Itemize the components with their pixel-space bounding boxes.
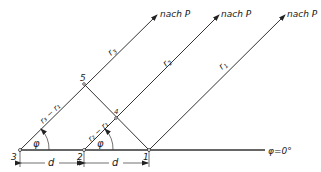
svg-text:r₃ − r₁: r₃ − r₁ [38, 102, 62, 126]
svg-text:r2: r2 [160, 56, 173, 69]
point-4 [115, 117, 118, 120]
point-4-label: 4 [114, 108, 118, 116]
distance-label-21: d [112, 157, 119, 168]
diff-r3-r1-label: r₃ − r₁ [38, 102, 62, 126]
ray-r3-label: r3 [105, 45, 118, 58]
ray-r2-label: r2 [160, 56, 173, 69]
angle-arc-2 [105, 129, 113, 150]
distance-label-32: d [48, 157, 55, 168]
svg-text:r3: r3 [105, 45, 118, 58]
ray-r1 [149, 15, 285, 150]
ray-r3 [20, 15, 157, 150]
point-5-label: 5 [80, 73, 86, 83]
angle-label-2: φ [97, 138, 104, 149]
point-2-label: 2 [77, 152, 83, 162]
angle-label-3: φ [33, 138, 40, 149]
ray-r3-target: nach P [160, 9, 191, 19]
point-3-label: 3 [11, 152, 17, 162]
angle-arc-3 [41, 129, 49, 150]
array-geometry-diagram: φ=0° nach P nach P nach P r3 r2 r1 r₃ − … [0, 0, 321, 172]
ray-r1-label: r1 [216, 59, 229, 72]
point-1-label: 1 [143, 152, 149, 162]
svg-text:r1: r1 [216, 59, 229, 72]
baseline-label: φ=0° [268, 146, 292, 156]
point-5 [83, 83, 86, 86]
ray-r1-target: nach P [287, 9, 318, 19]
ray-r2-target: nach P [221, 9, 252, 19]
